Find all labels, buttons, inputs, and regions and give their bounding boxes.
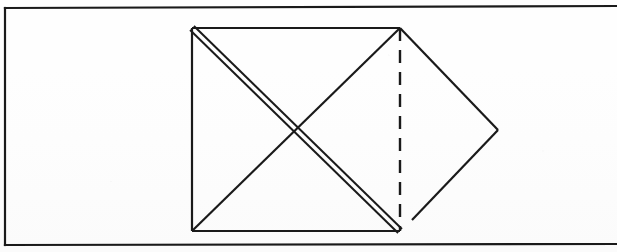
page-border-bottom-line	[5, 244, 617, 245]
right-point-triangle	[400, 28, 498, 220]
triangle-upper-edge	[400, 28, 498, 130]
figure-container	[0, 0, 617, 252]
triangle-lower-edge	[412, 130, 498, 220]
diagonal-top-right-to-bottom-left	[192, 28, 400, 231]
diagonal-secondary-stroke	[192, 28, 400, 231]
page-border	[5, 6, 617, 245]
page-border-top-line	[5, 6, 617, 8]
line-drawing-canvas	[0, 0, 617, 252]
